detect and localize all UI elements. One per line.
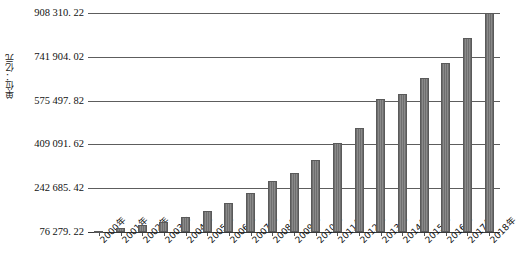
y-axis-tick-label: 76 279. 22 (6, 226, 84, 237)
bar (138, 225, 147, 232)
bar (159, 222, 168, 232)
y-axis-tick-label: 242 685. 42 (6, 182, 84, 193)
bar (181, 217, 190, 232)
bar (311, 160, 320, 232)
bar (355, 128, 364, 232)
y-axis-tick-label: 575 497. 82 (6, 95, 84, 106)
bar (376, 99, 385, 232)
bar (116, 228, 125, 232)
bar (420, 78, 429, 232)
bar (268, 181, 277, 232)
bar (485, 13, 494, 232)
bar (463, 38, 472, 232)
bar (203, 211, 212, 232)
bar (333, 143, 342, 232)
plot-area: 2000年2001年2002年2003年2004年2005年2006年2007年… (88, 0, 500, 269)
y-axis-tick-label: 409 091. 62 (6, 138, 84, 149)
bar (441, 63, 450, 232)
bar (224, 203, 233, 232)
bar (290, 173, 299, 232)
bar (246, 193, 255, 232)
y-axis-tick-label: 741 904. 02 (6, 51, 84, 62)
bar (398, 94, 407, 232)
bar-series: 2000年2001年2002年2003年2004年2005年2006年2007年… (88, 0, 500, 269)
y-axis-tick-labels: 908 310. 22741 904. 02575 497. 82409 091… (2, 0, 84, 269)
y-axis-tick-label: 908 310. 22 (6, 7, 84, 18)
